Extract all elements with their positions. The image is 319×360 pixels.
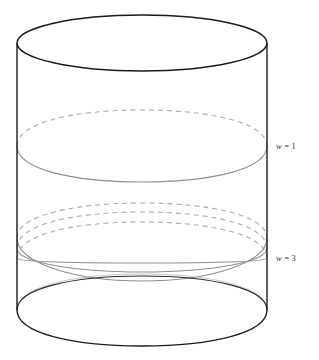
cylinder-winding-diagram: w=1 w=3 — [0, 0, 319, 360]
label-w3-variable: w — [276, 253, 282, 263]
top-rim-ellipse — [17, 15, 267, 71]
label-w1-variable: w — [276, 141, 282, 151]
label-w-equals-1: w=1 — [276, 141, 296, 151]
label-w-equals-3: w=3 — [276, 253, 296, 263]
label-w1-value: 1 — [291, 141, 295, 151]
label-w1-equals: = — [284, 141, 289, 151]
label-w3-equals: = — [284, 253, 289, 263]
figure-canvas: w=1 w=3 — [0, 0, 319, 360]
label-w3-value: 3 — [291, 253, 295, 263]
